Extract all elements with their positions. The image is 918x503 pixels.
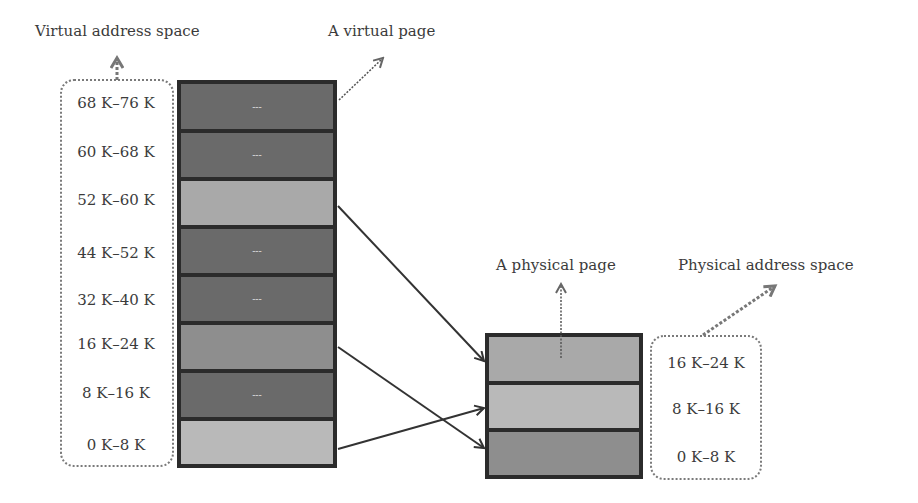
physical-space-pointer (703, 286, 775, 335)
physical-page-label: A physical page (496, 256, 616, 274)
virtual-address-label: 16 K–24 K (56, 335, 176, 353)
virtual-page-0-8k (181, 421, 333, 464)
physical-page-stack (485, 333, 643, 479)
unmapped-marker: --- (252, 294, 262, 304)
virtual-page-pointer (339, 58, 383, 100)
virtual-address-label: 52 K–60 K (56, 191, 176, 209)
unmapped-marker: --- (252, 102, 262, 112)
physical-address-space-label: Physical address space (678, 256, 854, 274)
unmapped-marker: --- (252, 150, 262, 160)
mapping-arrow-0-8k (338, 408, 484, 449)
virtual-page-stack: --- --- --- --- --- (177, 80, 337, 468)
virtual-page-32-40k: --- (181, 277, 333, 321)
virtual-address-label: 44 K–52 K (56, 244, 176, 262)
virtual-address-label: 60 K–68 K (56, 143, 176, 161)
virtual-page-60-68k: --- (181, 133, 333, 177)
unmapped-marker: --- (252, 246, 262, 256)
virtual-page-8-16k: --- (181, 373, 333, 417)
virtual-page-16-24k (181, 325, 333, 369)
physical-page-8-16k (489, 385, 639, 428)
virtual-page-68-76k: --- (181, 84, 333, 129)
virtual-address-range-bracket (60, 79, 174, 467)
virtual-address-label: 32 K–40 K (56, 291, 176, 309)
mapping-arrow-16-24k (338, 347, 484, 448)
virtual-page-52-60k (181, 181, 333, 225)
physical-address-label: 16 K–24 K (646, 354, 766, 372)
virtual-address-label: 0 K–8 K (56, 436, 176, 454)
virtual-address-space-label: Virtual address space (35, 22, 200, 40)
unmapped-marker: --- (252, 390, 262, 400)
virtual-address-label: 8 K–16 K (56, 384, 176, 402)
virtual-address-label: 68 K–76 K (56, 94, 176, 112)
physical-address-label: 8 K–16 K (646, 400, 766, 418)
physical-address-label: 0 K–8 K (646, 448, 766, 466)
physical-page-16-24k (489, 337, 639, 381)
mapping-arrow-52-60k (338, 206, 484, 361)
virtual-page-label: A virtual page (328, 22, 435, 40)
physical-page-0-8k (489, 432, 639, 475)
virtual-page-44-52k: --- (181, 229, 333, 273)
